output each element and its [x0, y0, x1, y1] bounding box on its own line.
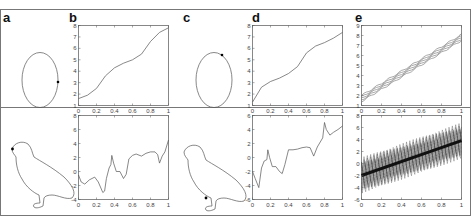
x-tick-label: 0.2 — [266, 202, 275, 208]
y-tick-label: -4 — [354, 185, 360, 191]
y-tick-label: -2 — [71, 183, 77, 189]
line-series — [362, 38, 462, 98]
x-tick-label: 0.6 — [302, 202, 311, 208]
line-series — [79, 140, 169, 193]
y-tick-label: 5 — [247, 57, 251, 63]
panel-a-bottom-bird — [11, 142, 74, 208]
panel-label-a: a — [3, 10, 11, 25]
x-tick-label: 0.4 — [397, 202, 406, 208]
x-tick-label: 0.2 — [92, 202, 101, 208]
y-tick-label: 2 — [247, 141, 251, 147]
y-tick-label: 3 — [73, 80, 77, 86]
y-tick-label: 0 — [247, 155, 251, 161]
x-tick-label: 0 — [360, 108, 364, 114]
panel-b-top-plot: 1234567800.20.40.60.81 — [73, 23, 171, 114]
x-tick-label: 1 — [460, 108, 464, 114]
y-tick-label: 6 — [356, 125, 360, 131]
line-series — [362, 40, 462, 100]
panel-c-top-ellipse — [196, 53, 232, 108]
y-tick-label: 2 — [356, 93, 360, 99]
y-tick-label: 8 — [356, 33, 360, 39]
panel-a-top-ellipse — [22, 53, 59, 108]
x-tick-label: 1 — [460, 202, 464, 208]
y-tick-label: -4 — [245, 183, 251, 189]
x-tick-label: 0.8 — [437, 202, 446, 208]
y-tick-label: 6 — [247, 45, 251, 51]
x-tick-label: 0.8 — [146, 108, 155, 114]
line-series — [362, 34, 462, 96]
x-tick-label: 1 — [341, 202, 345, 208]
y-tick-label: -2 — [245, 169, 251, 175]
y-tick-label: 8 — [247, 23, 251, 29]
x-tick-label: 0.8 — [320, 202, 329, 208]
x-tick-label: 1 — [341, 108, 345, 114]
line-series — [362, 36, 462, 97]
panel-b-bottom-plot: -4-20246800.20.40.60.81 — [71, 113, 171, 208]
y-tick-label: 7 — [247, 34, 251, 40]
y-tick-label: 3 — [356, 83, 360, 89]
marker-point — [11, 148, 14, 151]
y-tick-label: 2 — [356, 149, 360, 155]
y-tick-label: 4 — [356, 73, 360, 79]
x-tick-label: 0 — [77, 202, 81, 208]
figure: a b c d e 1234567800.20.40.60.81 -4-2024… — [0, 0, 471, 216]
y-tick-label: 4 — [73, 68, 77, 74]
y-tick-label: 2 — [73, 91, 77, 97]
x-tick-label: 0 — [360, 202, 364, 208]
x-tick-label: 0.4 — [284, 202, 293, 208]
x-tick-label: 0.8 — [146, 202, 155, 208]
marker-point — [221, 54, 224, 57]
y-tick-label: 7 — [356, 43, 360, 49]
x-tick-label: 0.6 — [417, 202, 426, 208]
y-tick-label: 6 — [73, 45, 77, 51]
y-tick-label: 0 — [73, 169, 77, 175]
line-series — [253, 123, 343, 188]
x-tick-label: 0.6 — [128, 108, 137, 114]
y-tick-label: 2 — [73, 155, 77, 161]
x-tick-label: 0 — [77, 108, 81, 114]
panel-d-bottom-plot: -6-4-2024600.20.40.60.81 — [245, 113, 345, 208]
y-tick-label: 0 — [356, 161, 360, 167]
panel-e-bottom-plot: -6-4-20246800.20.40.60.81 — [354, 113, 464, 208]
y-tick-label: 4 — [73, 141, 77, 147]
panel-d-top-plot: 1234567800.20.40.60.81 — [247, 23, 345, 114]
marker-point — [205, 197, 208, 200]
x-tick-label: 0.2 — [92, 108, 101, 114]
x-tick-label: 1 — [167, 108, 171, 114]
y-tick-label: 6 — [356, 53, 360, 59]
x-tick-label: 0.6 — [302, 108, 311, 114]
y-tick-label: 5 — [356, 63, 360, 69]
x-tick-label: 0.6 — [128, 202, 137, 208]
x-tick-label: 0.8 — [320, 108, 329, 114]
x-tick-label: 0.4 — [110, 108, 119, 114]
x-tick-label: 0.6 — [417, 108, 426, 114]
x-tick-label: 0.4 — [284, 108, 293, 114]
y-tick-label: 4 — [247, 127, 251, 133]
panel-e-top-plot: 12345678900.20.40.60.81 — [356, 23, 464, 114]
x-tick-label: 0.2 — [377, 108, 386, 114]
x-tick-label: 0 — [251, 202, 255, 208]
x-tick-label: 0.4 — [110, 202, 119, 208]
x-tick-label: 0.2 — [377, 202, 386, 208]
y-tick-label: 7 — [73, 34, 77, 40]
y-tick-label: 3 — [247, 80, 251, 86]
x-tick-label: 0.8 — [437, 108, 446, 114]
panel-c-bottom-bird — [184, 145, 246, 211]
marker-point — [57, 81, 60, 84]
y-tick-label: 6 — [73, 127, 77, 133]
x-tick-label: 0 — [251, 108, 255, 114]
x-tick-label: 1 — [167, 202, 171, 208]
panel-label-c: c — [183, 10, 190, 25]
y-tick-label: 2 — [247, 91, 251, 97]
y-tick-label: 4 — [247, 68, 251, 74]
line-series — [79, 28, 169, 99]
y-tick-label: 4 — [356, 137, 360, 143]
y-tick-label: 5 — [73, 57, 77, 63]
x-tick-label: 0.2 — [266, 108, 275, 114]
panel-label-d: d — [252, 10, 260, 25]
y-tick-label: -2 — [354, 173, 360, 179]
line-series — [253, 32, 343, 102]
line-series — [362, 41, 462, 102]
x-tick-label: 0.4 — [397, 108, 406, 114]
